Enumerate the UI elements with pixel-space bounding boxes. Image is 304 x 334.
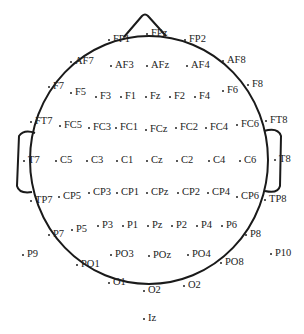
electrode-label: AF4 [191, 59, 210, 70]
electrode-label: PO3 [115, 248, 134, 259]
electrode-label: O1 [113, 276, 126, 287]
electrode-p1: P1 [122, 219, 138, 231]
electrode-f7: F7 [48, 80, 64, 92]
electrode-label: CP3 [93, 186, 111, 197]
electrode-label: POz [153, 249, 171, 260]
electrode-t7: T7 [23, 154, 40, 166]
electrode-label: P5 [76, 223, 87, 234]
electrode-dot-icon [48, 86, 50, 88]
electrode-dot-icon [183, 285, 185, 287]
electrode-label: FT7 [35, 115, 53, 126]
electrode-af7: AF7 [70, 55, 94, 67]
electrode-label: C6 [244, 154, 256, 165]
electrode-label: F3 [100, 90, 111, 101]
electrode-c6: C6 [239, 154, 256, 166]
electrode-o2: O2 [183, 279, 201, 291]
electrode-p2: P2 [171, 219, 187, 231]
electrode-dot-icon [30, 200, 32, 202]
electrode-dot-icon [88, 192, 90, 194]
electrode-dot-icon [70, 61, 72, 63]
electrode-dot-icon [122, 225, 124, 227]
electrode-label: C1 [121, 154, 133, 165]
electrode-label: CP2 [182, 186, 200, 197]
electrode-label: F5 [75, 86, 86, 97]
electrode-p5: P5 [71, 223, 87, 235]
electrode-f2: F2 [169, 90, 185, 102]
electrode-o1: O1 [108, 276, 126, 288]
electrode-dot-icon [115, 127, 117, 129]
electrode-label: FC3 [93, 121, 111, 132]
electrode-cpz: CPz [146, 186, 169, 198]
electrode-dot-icon [187, 254, 189, 256]
electrode-dot-icon [169, 96, 171, 98]
electrode-label: AF8 [227, 54, 246, 65]
electrode-label: P4 [201, 219, 212, 230]
electrode-po4: PO4 [187, 248, 211, 260]
electrode-label: CP5 [63, 190, 81, 201]
electrode-af4: AF4 [186, 59, 210, 71]
electrode-dot-icon [108, 282, 110, 284]
electrode-fc3: FC3 [88, 121, 111, 133]
electrode-label: CP6 [241, 190, 259, 201]
electrode-label: FC1 [120, 121, 138, 132]
electrode-c5: C5 [55, 154, 72, 166]
electrode-dot-icon [147, 225, 149, 227]
electrode-label: FC4 [210, 121, 228, 132]
electrode-p3: P3 [97, 219, 113, 231]
electrode-cp4: CP4 [207, 186, 230, 198]
electrode-dot-icon [22, 254, 24, 256]
electrode-fc6: FC6 [236, 118, 259, 130]
electrode-f1: F1 [120, 90, 136, 102]
electrode-dot-icon [176, 160, 178, 162]
electrode-fpz: FPz [146, 27, 167, 39]
electrode-dot-icon [86, 160, 88, 162]
electrode-label: FC5 [64, 119, 82, 130]
electrode-dot-icon [186, 65, 188, 67]
electrode-c4: C4 [208, 154, 225, 166]
electrode-dot-icon [245, 234, 247, 236]
electrode-dot-icon [70, 92, 72, 94]
electrode-label: AF3 [115, 59, 134, 70]
electrode-c1: C1 [116, 154, 133, 166]
electrode-label: PO1 [81, 258, 100, 269]
electrode-dot-icon [145, 96, 147, 98]
electrode-label: CP4 [212, 186, 230, 197]
electrode-f3: F3 [95, 90, 111, 102]
electrode-dot-icon [270, 253, 272, 255]
electrode-afz: AFz [146, 59, 169, 71]
electrode-cp2: CP2 [177, 186, 200, 198]
eeg-electrode-diagram: FP1FPzFP2AF7AF3AFzAF4AF8F7F5F3F1FzF2F4F6… [0, 0, 304, 334]
electrode-label: F1 [125, 90, 136, 101]
electrode-label: AF7 [75, 55, 94, 66]
electrode-dot-icon [116, 160, 118, 162]
electrode-p7: P7 [48, 228, 64, 240]
electrode-dot-icon [184, 39, 186, 41]
electrode-dot-icon [205, 127, 207, 129]
electrode-dot-icon [120, 96, 122, 98]
electrode-c2: C2 [176, 154, 193, 166]
electrode-label: FC6 [241, 118, 259, 129]
electrode-fp2: FP2 [184, 33, 206, 45]
electrode-label: C5 [60, 154, 72, 165]
electrode-pz: Pz [147, 219, 163, 231]
electrode-label: Cz [151, 154, 163, 165]
electrode-dot-icon [208, 160, 210, 162]
electrode-fc4: FC4 [205, 121, 228, 133]
electrode-label: P9 [27, 248, 38, 259]
electrode-dot-icon [207, 192, 209, 194]
electrode-dot-icon [236, 124, 238, 126]
electrode-dot-icon [110, 65, 112, 67]
electrode-label: F6 [227, 84, 238, 95]
electrode-dot-icon [146, 65, 148, 67]
electrode-af8: AF8 [222, 54, 246, 66]
electrode-label: Fz [150, 90, 161, 101]
electrode-label: O2 [188, 279, 201, 290]
electrode-f8: F8 [247, 78, 263, 90]
electrode-iz: Iz [143, 312, 156, 324]
electrode-af3: AF3 [110, 59, 134, 71]
electrode-label: P7 [53, 228, 64, 239]
electrode-label: FC2 [180, 121, 198, 132]
electrode-dot-icon [145, 129, 147, 131]
electrode-dot-icon [265, 120, 267, 122]
electrode-dot-icon [222, 60, 224, 62]
